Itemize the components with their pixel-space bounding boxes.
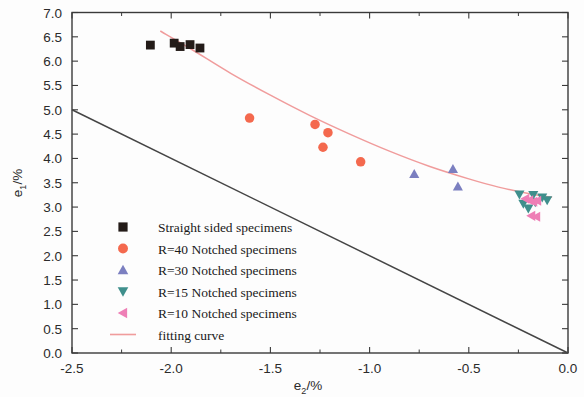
svg-text:e2/%: e2/% [294, 378, 322, 396]
legend-item-0: Straight sided specimens [118, 220, 292, 235]
y-tick-label: 1.0 [43, 297, 62, 312]
data-point [409, 169, 419, 178]
y-tick-label: 3.0 [43, 200, 62, 215]
legend-item-label: R=30 Notched specimens [158, 263, 297, 278]
x-axis-title: e2/% [294, 378, 322, 396]
data-point [146, 41, 155, 50]
plot-svg: -2.5-2.0-1.5-1.0-0.50.0 0.00.51.01.52.02… [0, 0, 584, 397]
data-point [318, 142, 328, 152]
legend-item-label: R=15 Notched specimens [158, 285, 297, 300]
data-point [453, 182, 463, 191]
legend-item-label: R=40 Notched specimens [158, 242, 297, 257]
y-tick-label: 3.5 [43, 176, 62, 191]
legend-item-1: R=40 Notched specimens [118, 242, 297, 257]
y-tick-label: 6.5 [43, 30, 62, 45]
data-point [542, 196, 552, 205]
data-point-markers [146, 39, 552, 222]
data-point [448, 164, 458, 173]
x-axis-title-unit: /% [306, 378, 322, 393]
x-axis-tick-labels: -2.5-2.0-1.5-1.0-0.50.0 [60, 361, 577, 376]
x-axis-title-base: e [294, 378, 302, 393]
plot-frame [72, 13, 568, 354]
x-tick-label: -1.5 [259, 361, 282, 376]
data-point [523, 205, 533, 214]
data-point [356, 157, 366, 167]
legend-item-label: fitting curve [158, 328, 224, 343]
legend-item-3: R=15 Notched specimens [118, 285, 297, 300]
legend-marker-swatch [118, 222, 127, 231]
data-point [196, 44, 205, 53]
y-tick-label: 5.0 [43, 103, 62, 118]
legend-marker-swatch [118, 287, 129, 296]
x-tick-label: 0.0 [559, 361, 578, 376]
fitting-curve [160, 31, 552, 197]
x-tick-label: -2.5 [60, 361, 83, 376]
data-point [245, 113, 255, 123]
data-point [176, 42, 185, 51]
y-tick-label: 6.0 [43, 54, 62, 69]
legend: Straight sided specimensR=40 Notched spe… [110, 220, 297, 343]
x-tick-label: -1.0 [358, 361, 381, 376]
y-tick-label: 0.5 [43, 322, 62, 337]
legend-item-2: R=30 Notched specimens [118, 263, 297, 278]
svg-text:e1/%: e1/% [10, 169, 28, 197]
y-tick-label: 7.0 [43, 6, 62, 21]
x-axis-ticks [72, 13, 568, 354]
series-0 [146, 39, 204, 53]
y-axis-ticks [72, 13, 568, 354]
scatter-plot-figure: -2.5-2.0-1.5-1.0-0.50.0 0.00.51.01.52.02… [0, 0, 584, 397]
legend-item-label: Straight sided specimens [158, 220, 292, 235]
legend-marker-swatch [118, 244, 128, 254]
y-tick-label: 4.5 [43, 127, 62, 142]
y-tick-label: 0.0 [43, 346, 62, 361]
legend-marker-swatch [118, 265, 129, 274]
y-tick-label: 5.5 [43, 78, 62, 93]
legend-item-5: fitting curve [110, 328, 224, 343]
y-tick-label: 4.0 [43, 151, 62, 166]
y-tick-label: 2.0 [43, 249, 62, 264]
data-point [310, 120, 320, 130]
series-1 [245, 113, 366, 166]
x-tick-label: -2.0 [160, 361, 183, 376]
legend-item-label: R=10 Notched specimens [158, 306, 297, 321]
data-point [323, 128, 333, 138]
y-tick-label: 1.5 [43, 273, 62, 288]
y-axis-tick-labels: 0.00.51.01.52.02.53.03.54.04.55.05.56.06… [43, 6, 62, 362]
y-axis-title-base: e [10, 190, 25, 198]
legend-item-4: R=10 Notched specimens [118, 306, 297, 321]
y-tick-label: 2.5 [43, 224, 62, 239]
legend-marker-swatch [118, 308, 127, 319]
y-axis-title-unit: /% [10, 169, 25, 185]
y-axis-title: e1/% [10, 169, 28, 197]
x-tick-label: -0.5 [457, 361, 480, 376]
data-point [186, 40, 195, 49]
